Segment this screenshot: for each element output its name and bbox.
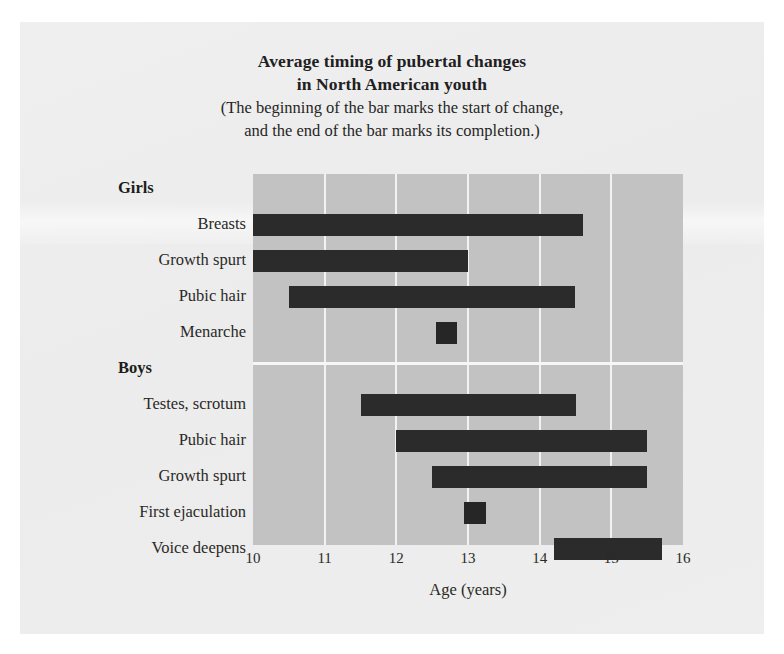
bar-boys-growth-spurt <box>432 466 647 488</box>
bar-boys-pubic-hair <box>396 430 647 452</box>
x-tick-label-10: 10 <box>233 550 273 567</box>
chart-title-line-1: Average timing of pubertal changes <box>20 50 764 73</box>
x-axis-title: Age (years) <box>253 580 683 600</box>
group-heading-boys: Boys <box>118 358 152 378</box>
chart-subtitle-line-2: and the end of the bar marks its complet… <box>20 119 764 142</box>
row-label: Growth spurt <box>60 250 246 270</box>
row-label: Pubic hair <box>60 430 246 450</box>
x-tick-label-16: 16 <box>663 550 703 567</box>
bar-boys-testes-scrotum <box>361 394 576 416</box>
row-label: Menarche <box>60 322 246 342</box>
bar-boys-first-ejaculation <box>464 502 486 524</box>
row-label: First ejaculation <box>60 502 246 522</box>
row-label: Voice deepens <box>60 538 246 558</box>
gridline-15 <box>610 174 612 545</box>
x-tick-label-11: 11 <box>305 550 345 567</box>
row-label: Breasts <box>60 214 246 234</box>
x-tick-label-13: 13 <box>448 550 488 567</box>
bar-girls-growth-spurt <box>253 250 468 272</box>
bar-girls-breasts <box>253 214 583 236</box>
x-tick-label-12: 12 <box>376 550 416 567</box>
chart-title-line-2: in North American youth <box>20 73 764 96</box>
row-label: Growth spurt <box>60 466 246 486</box>
x-tick-label-15: 15 <box>591 550 631 567</box>
figure-card: Average timing of pubertal changes in No… <box>20 22 764 634</box>
plot-area <box>253 174 683 545</box>
chart-title-block: Average timing of pubertal changes in No… <box>20 50 764 142</box>
group-separator <box>253 362 683 365</box>
bar-girls-pubic-hair <box>289 286 576 308</box>
x-tick-label-14: 14 <box>520 550 560 567</box>
row-label: Pubic hair <box>60 286 246 306</box>
row-label-column: GirlsBreastsGrowth spurtPubic hairMenarc… <box>60 174 246 545</box>
bar-girls-menarche <box>436 322 458 344</box>
group-heading-girls: Girls <box>118 178 154 198</box>
row-label: Testes, scrotum <box>60 394 246 414</box>
chart-subtitle-line-1: (The beginning of the bar marks the star… <box>20 96 764 119</box>
